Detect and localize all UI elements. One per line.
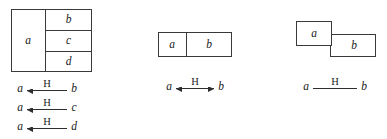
relation-target: b (215, 80, 227, 92)
connector-line (27, 128, 67, 129)
relation-label: H (27, 97, 67, 108)
relation-source: a (14, 82, 26, 94)
figure-canvas: a b c d a H b a H c a (0, 0, 387, 139)
cell-a: a (11, 9, 45, 72)
cell-a: a (296, 21, 332, 46)
relation-label: H (313, 76, 357, 87)
connector-plain-line: H (313, 78, 357, 94)
cell-d: d (45, 51, 92, 72)
relation-target: b (68, 82, 80, 94)
cell-a: a (158, 32, 186, 57)
cell-b: b (186, 32, 232, 57)
relation-source: a (14, 101, 26, 113)
connector-line (27, 109, 67, 110)
relation-source: a (163, 80, 175, 92)
relation-a-c: a H c (14, 99, 80, 115)
connector-line (313, 88, 357, 89)
relation-source: a (300, 80, 312, 92)
relation-label: H (176, 76, 214, 87)
cell-c: c (45, 30, 92, 51)
connector-arrow-left: H (27, 118, 67, 134)
relation-a-d: a H d (14, 118, 80, 134)
relation-label: H (27, 116, 67, 127)
relation-target: b (358, 80, 370, 92)
relation-target: d (68, 120, 80, 132)
relation-label: H (27, 78, 67, 89)
cell-b: b (332, 34, 376, 57)
connector-arrow-left: H (27, 80, 67, 96)
connector-line (27, 90, 67, 91)
relation-a-b: a H b (163, 78, 227, 94)
connector-arrow-both: H (176, 78, 214, 94)
relation-target: c (68, 101, 80, 113)
connector-arrow-left: H (27, 99, 67, 115)
relation-a-b: a H b (300, 78, 370, 94)
cell-b: b (45, 9, 92, 30)
relation-source: a (14, 120, 26, 132)
relation-a-b: a H b (14, 80, 80, 96)
